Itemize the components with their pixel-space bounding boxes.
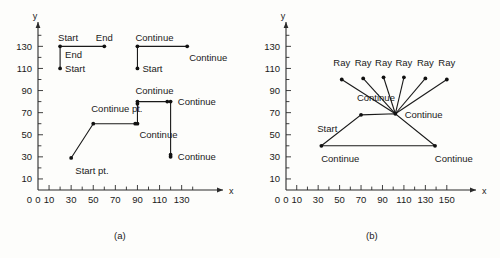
point-annotation: Continue xyxy=(405,109,443,120)
data-point-marker xyxy=(445,78,449,82)
point-annotation: Start xyxy=(58,32,78,43)
y-tick-label: 90 xyxy=(269,85,280,96)
origin-label: 0 xyxy=(275,194,280,205)
x-tick-labels: 01030507090110130150 xyxy=(283,194,454,205)
y-tick-label: 130 xyxy=(16,41,32,52)
y-tick-label: 70 xyxy=(269,107,280,118)
data-point-marker xyxy=(136,67,140,71)
data-point-marker xyxy=(69,156,73,160)
y-tick-label: 30 xyxy=(269,151,280,162)
x-tick-label: 90 xyxy=(132,194,143,205)
point-annotation: Ray xyxy=(395,57,412,68)
x-axis-label: x xyxy=(482,186,487,196)
point-annotation: Continue xyxy=(189,52,227,63)
x-tick-label: 50 xyxy=(88,194,99,205)
point-annotation: Ray xyxy=(438,57,455,68)
x-tick-label: 130 xyxy=(174,194,190,205)
chart-panel-a: 0103050709011013010305070901101300xyStar… xyxy=(0,0,250,258)
y-axis-arrow xyxy=(36,22,41,28)
chart-panel-b: 0103050709011013015010305070901101300xyR… xyxy=(250,0,500,258)
data-point-marker xyxy=(361,76,365,80)
point-annotation: End xyxy=(65,49,82,60)
point-annotation: Start pt. xyxy=(75,165,108,176)
x-tick-label: 0 xyxy=(35,194,40,205)
annotation-group: RayRayRayRayRayRayContinueContinueStartC… xyxy=(317,57,473,164)
y-axis-label: y xyxy=(33,11,38,21)
x-tick-label: 90 xyxy=(377,194,388,205)
x-axis-arrow xyxy=(470,188,476,193)
data-point-marker xyxy=(58,67,62,71)
data-point-marker xyxy=(433,144,437,148)
x-tick-label: 50 xyxy=(334,194,345,205)
point-annotation: Continue xyxy=(357,92,395,103)
x-ticks xyxy=(49,185,193,190)
origin-label: 0 xyxy=(27,194,32,205)
data-point-marker xyxy=(393,112,397,116)
x-ticks xyxy=(297,185,447,190)
data-point-marker xyxy=(402,75,406,79)
point-annotation: Continue xyxy=(135,85,173,96)
y-tick-label: 10 xyxy=(21,173,32,184)
y-axis-label: y xyxy=(281,11,286,21)
y-ticks xyxy=(38,35,43,179)
point-annotation: Ray xyxy=(375,57,392,68)
y-ticks xyxy=(286,35,291,179)
point-annotation: End xyxy=(96,32,113,43)
y-tick-label: 70 xyxy=(21,107,32,118)
y-tick-label: 110 xyxy=(265,63,280,74)
x-axis-label: x xyxy=(229,186,234,196)
data-point-marker xyxy=(319,144,323,148)
caption-a: (a) xyxy=(114,230,126,241)
point-annotation: Start xyxy=(65,63,85,74)
data-point-marker xyxy=(359,113,363,117)
point-annotation: Continue xyxy=(135,32,173,43)
figure-root: 0103050709011013010305070901101300xyStar… xyxy=(0,0,500,258)
data-point-marker xyxy=(136,122,140,126)
point-annotation: Continue xyxy=(178,151,216,162)
x-tick-label: 10 xyxy=(44,194,55,205)
data-point-marker xyxy=(340,78,344,82)
point-annotation: Ray xyxy=(333,57,350,68)
point-annotation: Continue xyxy=(435,153,473,164)
x-tick-label: 30 xyxy=(66,194,77,205)
point-annotation: Start xyxy=(142,63,162,74)
y-tick-label: 30 xyxy=(21,151,32,162)
x-tick-label: 0 xyxy=(283,194,288,205)
annotation-group: StartEndEndStartContinueContinueStartCon… xyxy=(58,32,227,175)
data-point-marker xyxy=(382,75,386,79)
y-tick-label: 130 xyxy=(264,41,280,52)
data-point-marker xyxy=(185,44,189,48)
data-point-marker xyxy=(423,76,427,80)
axes-group xyxy=(284,22,476,192)
y-axis-arrow xyxy=(284,22,289,28)
data-point-marker xyxy=(91,122,95,126)
y-tick-label: 110 xyxy=(17,63,32,74)
caption-b: (b) xyxy=(366,230,378,241)
x-tick-label: 150 xyxy=(439,194,455,205)
data-point-marker xyxy=(165,100,169,104)
data-point-marker xyxy=(169,100,173,104)
x-tick-labels: 01030507090110130 xyxy=(35,194,189,205)
point-annotation: Continue xyxy=(139,129,177,140)
data-point-marker xyxy=(169,155,173,159)
x-tick-label: 110 xyxy=(396,194,411,205)
y-tick-labels: 10305070901101300 xyxy=(264,41,280,205)
point-annotation: Continue xyxy=(321,153,359,164)
x-tick-label: 70 xyxy=(356,194,367,205)
chart-a-canvas: 0103050709011013010305070901101300xyStar… xyxy=(0,0,250,215)
point-annotation: Continue pt. xyxy=(91,103,142,114)
y-tick-label: 50 xyxy=(21,129,32,140)
x-tick-label: 10 xyxy=(291,194,302,205)
x-tick-label: 30 xyxy=(313,194,324,205)
y-tick-label: 50 xyxy=(269,129,280,140)
point-annotation: Start xyxy=(317,123,337,134)
point-annotation: Ray xyxy=(417,57,434,68)
y-tick-labels: 10305070901101300 xyxy=(16,41,32,205)
x-axis-arrow xyxy=(217,188,223,193)
y-tick-label: 90 xyxy=(21,85,32,96)
data-point-marker xyxy=(58,44,62,48)
x-tick-label: 110 xyxy=(152,194,167,205)
data-point-marker xyxy=(102,44,106,48)
y-tick-label: 10 xyxy=(269,173,280,184)
chart-b-canvas: 0103050709011013015010305070901101300xyR… xyxy=(250,0,500,215)
